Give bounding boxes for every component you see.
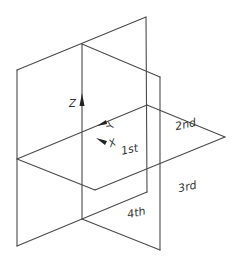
quadrant-label-3rd: 3rd — [177, 178, 199, 195]
y-axis-arrow: Y — [97, 120, 117, 131]
z-arrowhead-icon — [80, 93, 85, 106]
quadrant-label-2nd: 2nd — [174, 116, 198, 133]
y-axis-label: Y — [104, 120, 117, 130]
x-arrowhead-icon — [96, 138, 107, 145]
x-axis-arrow: X — [96, 136, 118, 149]
diagram-canvas: Z Y X 1st 2nd 3rd 4th — [0, 0, 236, 262]
quadrant-label-1st: 1st — [120, 141, 140, 157]
x-axis-label: X — [106, 136, 118, 149]
z-axis-label: Z — [68, 98, 77, 109]
quadrant-planes-diagram: Z Y X 1st 2nd 3rd 4th — [0, 0, 236, 262]
quadrant-label-4th: 4th — [126, 205, 147, 222]
